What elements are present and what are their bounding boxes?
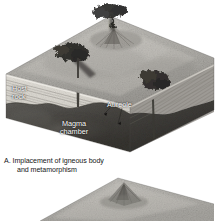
- figure-container: Host rock Aureole Magma chamber A. Impla…: [0, 0, 215, 221]
- panel-a-caption-line1: A. Implacement of igneous body: [4, 157, 104, 165]
- block-diagram-illustration: [0, 0, 215, 221]
- panel-a-caption-line2: and metamorphism: [17, 166, 77, 174]
- label-host-rock-line2: rock: [12, 93, 27, 101]
- label-aureole: Aureole: [107, 101, 132, 109]
- label-host-rock: Host rock: [12, 85, 27, 101]
- magma-conduit-left-upper: [77, 58, 79, 78]
- label-magma-line2: chamber: [60, 128, 88, 136]
- label-magma-chamber: Magma chamber: [60, 120, 88, 136]
